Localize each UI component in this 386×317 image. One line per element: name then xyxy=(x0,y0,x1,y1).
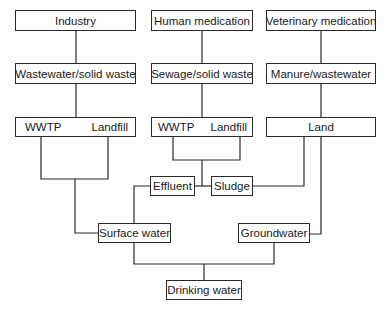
label-landfill: Landfill xyxy=(211,121,247,133)
node-land: Land xyxy=(266,117,376,137)
node-groundwater: Groundwater xyxy=(238,223,310,243)
node-surface-water: Surface water xyxy=(98,223,171,243)
node-effluent: Effluent xyxy=(150,176,195,196)
label-landfill: Landfill xyxy=(92,121,128,133)
node-human-medication: Human medication xyxy=(151,10,253,31)
node-sewage-solid-waste: Sewage/solid waste xyxy=(151,63,253,84)
label-wwtp: WWTP xyxy=(158,121,194,133)
label-wwtp: WWTP xyxy=(25,121,61,133)
node-manure-wastewater: Manure/wastewater xyxy=(266,63,376,84)
node-drinking-water: Drinking water xyxy=(166,280,242,300)
connector-lines xyxy=(0,0,386,317)
node-sludge: Sludge xyxy=(211,176,253,196)
node-wastewater-solid-waste: Wastewater/solid waste xyxy=(15,63,136,84)
node-industry: Industry xyxy=(15,10,136,31)
flowchart-canvas: Industry Human medication Veterinary med… xyxy=(0,0,386,317)
node-wwtp-landfill-industry: WWTP Landfill xyxy=(15,117,136,137)
node-wwtp-landfill-human: WWTP Landfill xyxy=(151,117,253,137)
node-veterinary-medication: Veterinary medication xyxy=(266,10,376,31)
